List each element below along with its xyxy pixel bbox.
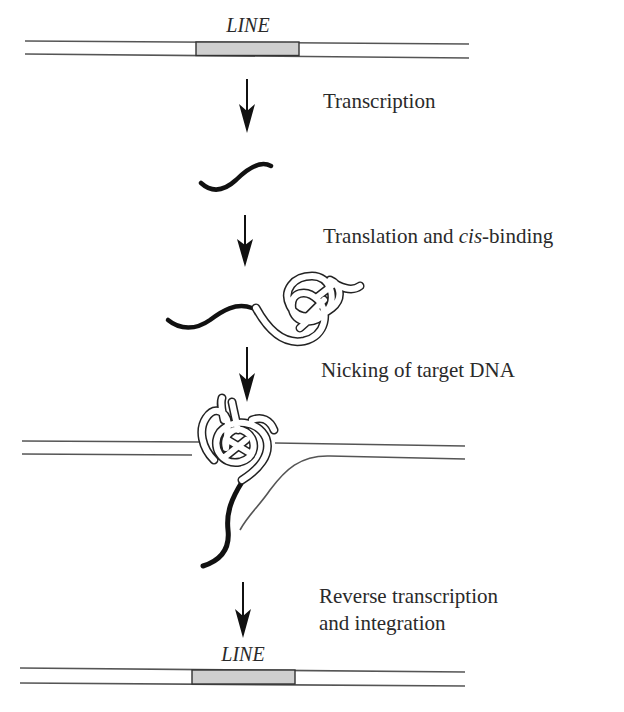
arrow-down-icon [235,582,251,638]
arrow-down-icon [239,347,255,402]
step-label-reverse-transcription: Reverse transcription and integration [319,583,498,637]
diagram-canvas [0,0,624,712]
rna-transcript [201,164,271,190]
protein-tangle-on-dna [202,398,274,480]
step-label-translation: Translation and cis-binding [323,223,553,250]
bottom-line-label: LINE [221,643,264,666]
step-label-transcription: Transcription [323,88,435,115]
translation-label-suffix: -binding [482,224,553,248]
top-line-label: LINE [226,14,269,37]
reverse-transcription-line1: Reverse transcription [319,583,498,610]
rna-strand [168,306,252,327]
top-line-element-box [196,42,299,56]
target-dna-lower-left [22,454,192,455]
bottom-line-element-box [192,670,295,684]
arrow-down-icon [237,215,253,267]
bottom-genomic-dna [20,668,465,686]
target-dna-upper-left [22,441,200,442]
target-dna-upper-right [275,443,465,446]
rna-template-strand [203,482,242,566]
reverse-transcription-line2: and integration [319,610,498,637]
top-genomic-dna [25,41,469,58]
target-dna-nicked-strand [240,456,465,530]
rna-with-bound-protein [168,276,360,342]
translation-label-prefix: Translation and [323,224,459,248]
protein-tangle [256,276,360,342]
step-label-nicking: Nicking of target DNA [321,357,515,384]
translation-label-cis: cis [459,224,482,248]
line-retrotransposition-diagram: LINE LINE Transcription Translation and … [0,0,624,712]
arrow-down-icon [239,79,255,133]
